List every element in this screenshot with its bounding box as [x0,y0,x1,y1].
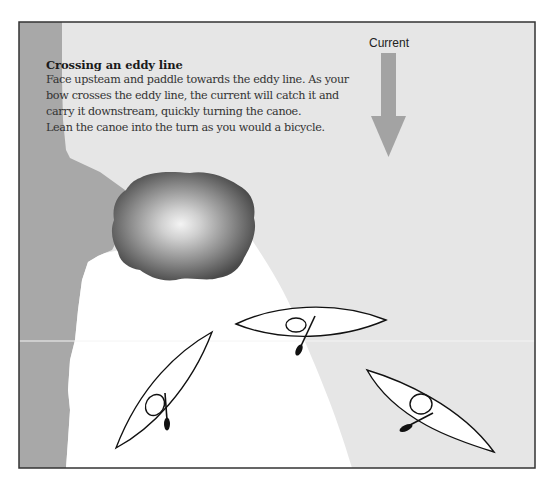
caption-block: Crossing an eddy line Face upsteam and p… [46,58,376,136]
caption-line: Lean the canoe into the turn as you woul… [46,120,376,136]
eddy-line-diagram: Current Crossing an eddy line Face upste… [0,0,552,487]
current-label: Current [366,36,412,50]
caption-line: bow crosses the eddy line, the current w… [46,88,376,104]
caption-line: Face upsteam and paddle towards the eddy… [46,72,376,88]
caption-title: Crossing an eddy line [46,58,376,72]
rock [112,172,255,280]
caption-line: carry it downstream, quickly turning the… [46,104,376,120]
